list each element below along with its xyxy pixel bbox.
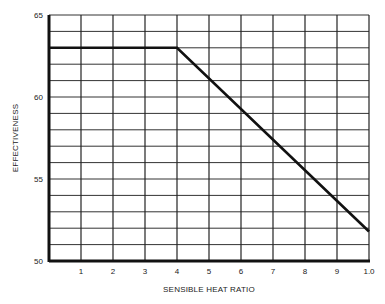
x-tick-label: 9 (335, 267, 340, 276)
x-tick-label: 4 (175, 267, 180, 276)
x-tick-label: 8 (303, 267, 308, 276)
x-tick-label: 1 (79, 267, 84, 276)
x-tick-label: 3 (143, 267, 148, 276)
y-axis-label: EFFECTIVENESS (11, 104, 20, 172)
x-tick-labels: 1234567891.0 (79, 267, 375, 276)
y-tick-label: 55 (34, 175, 43, 184)
grid-lines (49, 15, 369, 261)
x-tick-label: 6 (239, 267, 244, 276)
effectiveness-chart: 50556065 1234567891.0 SENSIBLE HEAT RATI… (0, 0, 385, 304)
y-tick-label: 50 (34, 257, 43, 266)
x-axis-label: SENSIBLE HEAT RATIO (163, 285, 255, 294)
x-tick-label: 5 (207, 267, 212, 276)
x-tick-label: 1.0 (363, 267, 375, 276)
y-tick-label: 60 (34, 93, 43, 102)
y-tick-labels: 50556065 (34, 11, 43, 266)
x-tick-label: 7 (271, 267, 276, 276)
x-tick-label: 2 (111, 267, 116, 276)
y-tick-label: 65 (34, 11, 43, 20)
